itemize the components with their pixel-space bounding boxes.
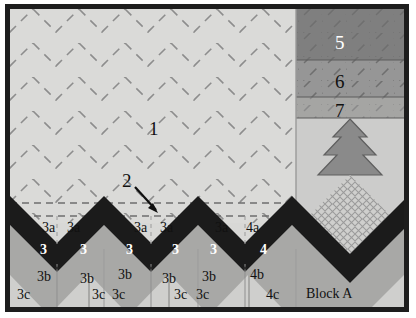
label-3-3: 3 [126, 243, 133, 257]
label-3-1: 3 [40, 243, 47, 257]
label-3-2: 3 [80, 243, 87, 257]
label-3c-5: 3c [196, 288, 209, 302]
label-3b-3: 3b [118, 268, 132, 282]
label-4a: 4a [246, 221, 259, 235]
label-4b: 4b [250, 268, 264, 282]
label-band-7: 7 [335, 101, 345, 120]
label-band-5: 5 [335, 33, 345, 52]
label-3-4: 3 [172, 243, 179, 257]
label-3c-1: 3c [17, 288, 30, 302]
label-block-a: Block A [306, 287, 352, 301]
label-3c-2: 3c [92, 288, 105, 302]
label-3a-2: 3a [67, 221, 80, 235]
label-3b-5: 3b [202, 270, 216, 284]
label-3-5: 3 [210, 243, 217, 257]
label-3c-4: 3c [174, 288, 187, 302]
label-callout-2: 2 [122, 171, 132, 190]
label-band-6: 6 [335, 72, 345, 91]
label-region-1: 1 [149, 119, 159, 138]
label-3a-5: 3a [215, 221, 228, 235]
label-3b-4: 3b [162, 272, 176, 286]
label-3a-1: 3a [42, 221, 55, 235]
callout-arrow [135, 187, 158, 213]
quilt-diagram-root: 1 2 5 6 7 3a 3a 3a 3a 3a 4a 3 3 3 3 3 4 … [0, 0, 416, 318]
label-3c-3: 3c [112, 288, 125, 302]
label-3b-2: 3b [80, 272, 94, 286]
label-3a-4: 3a [160, 221, 173, 235]
label-3b-1: 3b [37, 270, 51, 284]
diagram-canvas: 1 2 5 6 7 3a 3a 3a 3a 3a 4a 3 3 3 3 3 4 … [10, 9, 404, 307]
zigzag-layer [10, 9, 404, 307]
label-4c: 4c [266, 288, 279, 302]
label-4: 4 [260, 243, 267, 257]
label-3a-3: 3a [134, 221, 147, 235]
